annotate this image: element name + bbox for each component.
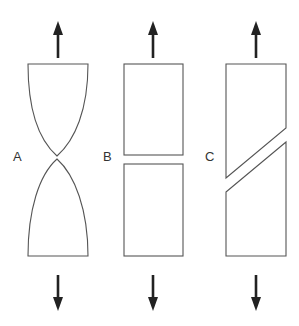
panel-a: A [13, 21, 88, 311]
arrow-down-icon [148, 275, 158, 311]
specimen-b-bottom [124, 164, 183, 256]
arrow-down-icon [53, 275, 63, 311]
specimen-a-top [28, 64, 88, 156]
specimen-a-bottom [28, 159, 88, 256]
label-a: A [13, 149, 22, 164]
arrow-up-icon [53, 21, 63, 58]
panel-c: C [205, 21, 286, 311]
label-b: B [103, 149, 112, 164]
panel-b: B [103, 21, 183, 311]
arrow-up-icon [251, 21, 261, 58]
arrow-down-icon [251, 275, 261, 311]
specimen-b-top [124, 64, 183, 155]
fracture-diagram: A B C [0, 0, 299, 326]
specimen-c-bottom [226, 142, 286, 256]
label-c: C [205, 149, 214, 164]
specimen-c-top [226, 64, 286, 178]
arrow-up-icon [148, 21, 158, 58]
